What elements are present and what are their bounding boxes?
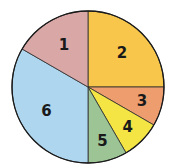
slice-label-5: 5 — [97, 132, 107, 150]
pie-chart: 234561 — [0, 0, 178, 168]
slice-label-1: 1 — [59, 36, 69, 54]
slice-label-2: 2 — [117, 44, 127, 62]
slice-label-4: 4 — [122, 118, 132, 136]
pie-slices — [12, 11, 164, 163]
slice-label-3: 3 — [137, 92, 147, 110]
slice-label-6: 6 — [41, 102, 51, 120]
